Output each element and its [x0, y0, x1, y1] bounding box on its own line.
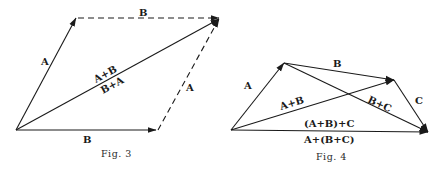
label-a-plus-b: A+B	[277, 94, 305, 112]
label-a-left: A	[40, 56, 49, 67]
figure-4: A B C A+B B+C (A+B)+C A+(B+C) Fig. 4	[231, 58, 428, 162]
label-b: B	[333, 58, 341, 69]
vector-total	[231, 130, 428, 132]
caption-fig-3: Fig. 3	[101, 148, 132, 159]
label-a-right: A	[185, 82, 194, 93]
label-sum-upper: (A+B)+C	[304, 118, 354, 129]
label-a: A	[243, 80, 252, 91]
caption-fig-4: Fig. 4	[316, 151, 347, 162]
vector-a	[231, 63, 284, 130]
vector-addition-figures: A B A+B B+A A B Fig. 3 A B C A+B B+C (A+…	[0, 0, 442, 170]
label-sum-lower: A+(B+C)	[303, 134, 354, 145]
label-b-plus-c: B+C	[366, 94, 393, 114]
label-c: C	[415, 95, 423, 106]
figure-3: A B A+B B+A A B Fig. 3	[16, 7, 219, 159]
label-b-bottom: B	[83, 134, 91, 145]
label-b-top: B	[139, 7, 147, 18]
